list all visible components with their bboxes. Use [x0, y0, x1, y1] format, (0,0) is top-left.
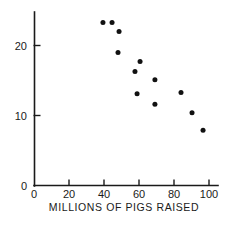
data-point	[152, 77, 157, 82]
data-point	[132, 69, 137, 74]
y-axis: 01020	[15, 12, 41, 192]
x-tick-group: 020406080100	[31, 180, 218, 200]
x-tick-label: 0	[31, 188, 37, 200]
x-tick-label: 20	[63, 188, 75, 200]
data-point	[135, 91, 140, 96]
data-point	[100, 20, 105, 25]
y-tick-label: 0	[21, 180, 27, 192]
y-tick-label: 20	[15, 40, 27, 52]
data-point	[179, 90, 184, 95]
data-point-group	[100, 20, 205, 133]
data-point	[138, 59, 143, 64]
y-tick-label: 10	[15, 110, 27, 122]
x-axis: 020406080100	[31, 180, 218, 200]
x-tick-label: 60	[133, 188, 145, 200]
y-tick-group: 01020	[15, 40, 41, 192]
x-tick-label: 40	[98, 188, 110, 200]
data-point	[190, 110, 195, 115]
x-tick-label: 80	[168, 188, 180, 200]
x-axis-title: MILLIONS OF PIGS RAISED	[49, 201, 199, 213]
scatter-plot-figure: 01020 020406080100 MILLIONS OF PIGS RAIS…	[0, 0, 228, 226]
data-point	[116, 50, 121, 55]
chart-canvas: 01020 020406080100 MILLIONS OF PIGS RAIS…	[0, 0, 228, 226]
data-point	[117, 29, 122, 34]
data-point	[201, 128, 206, 133]
x-tick-label: 100	[200, 188, 218, 200]
data-point	[110, 20, 115, 25]
data-point	[152, 102, 157, 107]
